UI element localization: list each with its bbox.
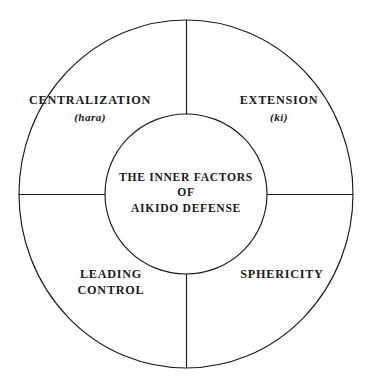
center-hub-label: THE INNER FACTORS OF AIKIDO DEFENSE — [103, 170, 269, 216]
quadrant-primary-text: EXTENSION — [196, 93, 362, 109]
center-line-1: THE INNER FACTORS — [103, 170, 269, 185]
quadrant-primary-text: SPHERICITY — [202, 267, 362, 283]
quadrant-label-leading-control: LEADING CONTROL — [36, 267, 186, 298]
quadrant-secondary-text: (ki) — [196, 110, 362, 124]
diagram-canvas: CENTRALIZATION (hara) EXTENSION (ki) LEA… — [0, 0, 369, 385]
quadrant-primary-text: CENTRALIZATION — [0, 93, 180, 109]
quadrant-label-centralization: CENTRALIZATION (hara) — [0, 93, 180, 124]
center-line-3: AIKIDO DEFENSE — [103, 201, 269, 216]
quadrant-secondary-text: (hara) — [0, 110, 180, 124]
quadrant-label-sphericity: SPHERICITY — [202, 267, 362, 283]
center-line-2: OF — [103, 185, 269, 200]
quadrant-secondary-text: CONTROL — [36, 283, 186, 299]
quadrant-label-extension: EXTENSION (ki) — [196, 93, 362, 124]
quadrant-primary-text: LEADING — [36, 267, 186, 283]
